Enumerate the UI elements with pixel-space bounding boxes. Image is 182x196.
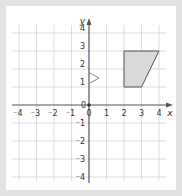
x-tick-label: 2	[121, 109, 126, 118]
x-tick-label: 3	[139, 109, 144, 118]
y-tick-label: ⁻3	[76, 155, 85, 164]
x-tick-label: ⁻3	[31, 109, 40, 118]
x-tick-label: ⁻1	[66, 109, 75, 118]
origin-dot	[87, 103, 91, 107]
y-tick-label: 0	[81, 101, 86, 110]
y-tick-label: ⁻4	[76, 173, 85, 182]
x-tick-label: 1	[104, 109, 109, 118]
y-axis-arrow-icon	[87, 18, 92, 25]
y-tick-label: ⁻1	[76, 119, 85, 128]
x-axis-arrow-icon	[166, 103, 173, 108]
x-tick-label: 0	[86, 109, 91, 118]
x-tick-label: ⁻4	[13, 109, 22, 118]
triangle-marker-icon	[90, 73, 99, 83]
x-axis-label: x	[166, 108, 173, 118]
x-tick-label: ⁻2	[48, 109, 57, 118]
y-tick-label: 3	[80, 42, 85, 51]
y-tick-label: ⁻2	[76, 137, 85, 146]
x-tick-label: 4	[156, 109, 161, 118]
coordinate-grid: ⁻4⁻3⁻2⁻10123443210⁻1⁻2⁻3⁻4xy	[0, 0, 182, 196]
y-axis-label: y	[79, 16, 86, 26]
y-tick-label: 2	[80, 60, 85, 69]
y-tick-label: 1	[80, 78, 85, 87]
